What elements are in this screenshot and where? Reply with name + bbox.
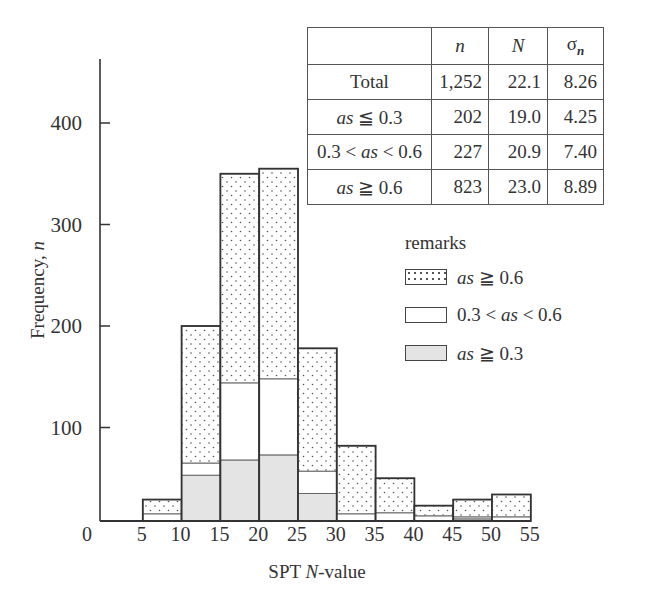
x-tick-label: 30: [326, 523, 346, 545]
x-tick-label: 50: [481, 523, 501, 545]
histogram-bar: [453, 500, 492, 521]
histogram-bar: [143, 500, 182, 521]
row-label: Total: [308, 65, 432, 100]
cell-N: 23.0: [489, 170, 548, 205]
bar-segment-dotted: [376, 478, 415, 513]
row-label: 0.3 < as < 0.6: [308, 135, 432, 170]
legend-item-high: as ≧ 0.6: [405, 258, 562, 296]
bar-segment-dotted: [182, 326, 221, 463]
bar-segment-gray: [259, 455, 298, 521]
histogram-bar: [182, 326, 221, 521]
table-row: Total 1,252 22.1 8.26: [308, 65, 604, 100]
bar-segment-gray: [298, 493, 337, 521]
x-tick-label: 10: [171, 523, 191, 545]
legend-label: as ≧ 0.3: [457, 342, 523, 365]
bar-segment-white: [337, 514, 376, 521]
bar-segment-white: [259, 379, 298, 455]
bar-segment-dotted: [259, 169, 298, 379]
bar-segment-dotted: [337, 446, 376, 514]
x-axis-label: SPT N-value: [268, 561, 365, 582]
cell-sigma: 7.40: [548, 135, 604, 170]
row-label: as ≧ 0.6: [308, 170, 432, 205]
bar-segment-gray: [220, 460, 259, 521]
x-tick-label: 25: [287, 523, 307, 545]
cell-N: 19.0: [489, 100, 548, 135]
y-tick-label: 300: [51, 213, 83, 237]
bar-segment-gray: [182, 475, 221, 521]
bar-segment-dotted: [298, 348, 337, 471]
y-tick-label: 200: [51, 314, 83, 338]
histogram-bar: [414, 506, 453, 521]
legend-title: remarks: [405, 230, 562, 256]
row-label: as ≦ 0.3: [308, 100, 432, 135]
legend-item-mid: 0.3 < as < 0.6: [405, 296, 562, 334]
y-axis-label: Frequency, n: [27, 241, 48, 339]
bar-segment-white: [182, 463, 221, 475]
cell-N: 22.1: [489, 65, 548, 100]
cell-n: 202: [432, 100, 489, 135]
bar-segment-dotted: [143, 500, 182, 514]
cell-n: 1,252: [432, 65, 489, 100]
cell-n: 227: [432, 135, 489, 170]
bar-segment-dotted: [414, 506, 453, 516]
cell-sigma: 4.25: [548, 100, 604, 135]
x-tick-label: 45: [442, 523, 462, 545]
table-row: 0.3 < as < 0.6 227 20.9 7.40: [308, 135, 604, 170]
histogram-bar: [376, 478, 415, 521]
bar-segment-dotted: [492, 494, 531, 516]
histogram-bar: [259, 169, 298, 521]
y-ticks: 100200300400: [51, 111, 111, 440]
histogram-bar: [220, 174, 259, 521]
table-header-n: n: [432, 28, 489, 65]
x-tick-label: 55: [520, 523, 540, 545]
x-tick-label: 15: [209, 523, 229, 545]
legend-label: 0.3 < as < 0.6: [457, 304, 562, 326]
table-header-sigma: σn: [548, 28, 604, 65]
gray-swatch-icon: [405, 345, 447, 361]
table-header-N: N: [489, 28, 548, 65]
x-tick-label: 35: [365, 523, 385, 545]
histogram-bar: [337, 446, 376, 521]
y-tick-label: 100: [51, 416, 83, 440]
dotted-swatch-icon: [405, 269, 447, 285]
cell-sigma: 8.89: [548, 170, 604, 205]
x-tick-label: 20: [248, 523, 268, 545]
x-tick-label: 0: [82, 523, 92, 545]
histogram-bar: [492, 494, 531, 521]
table-header-blank: [308, 28, 432, 65]
y-tick-label: 400: [51, 111, 83, 135]
bar-segment-white: [143, 514, 182, 521]
table-row: as ≦ 0.3 202 19.0 4.25: [308, 100, 604, 135]
cell-N: 20.9: [489, 135, 548, 170]
table-row: as ≧ 0.6 823 23.0 8.89: [308, 170, 604, 205]
cell-sigma: 8.26: [548, 65, 604, 100]
bar-segment-dotted: [453, 500, 492, 517]
x-ticks: 0510152025303540455055: [82, 523, 540, 545]
legend-item-low: as ≧ 0.3: [405, 334, 562, 372]
legend-label: as ≧ 0.6: [457, 266, 523, 289]
x-tick-label: 40: [403, 523, 423, 545]
histogram-bar: [298, 348, 337, 521]
statistics-table: n N σn Total 1,252 22.1 8.26 as ≦ 0.3 20…: [307, 27, 604, 205]
bar-segment-white: [298, 471, 337, 493]
white-swatch-icon: [405, 307, 447, 323]
legend: remarks as ≧ 0.6 0.3 < as < 0.6 as ≧ 0.3: [405, 230, 562, 372]
x-tick-label: 5: [137, 523, 147, 545]
table-header-row: n N σn: [308, 28, 604, 65]
bar-segment-dotted: [220, 174, 259, 383]
bar-segment-white: [220, 383, 259, 460]
cell-n: 823: [432, 170, 489, 205]
bar-segment-white: [376, 513, 415, 521]
